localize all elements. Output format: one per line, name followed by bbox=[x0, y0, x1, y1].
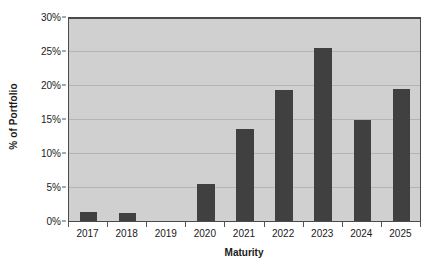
bar-slot bbox=[265, 17, 304, 221]
bar-slot bbox=[382, 17, 421, 221]
y-axis-tick-mark bbox=[62, 51, 66, 52]
bars-layer bbox=[69, 17, 421, 221]
bar-slot bbox=[304, 17, 343, 221]
x-axis-tick-mark bbox=[107, 222, 108, 227]
x-axis-tick-mark bbox=[185, 222, 186, 227]
bar-slot bbox=[186, 17, 225, 221]
bar-chart: % of Portfolio 0%5%10%15%20%25%30% 20172… bbox=[0, 0, 437, 272]
y-axis-title-label: % of Portfolio bbox=[8, 83, 19, 149]
y-axis-tick-mark bbox=[62, 153, 66, 154]
bar-slot bbox=[343, 17, 382, 221]
x-axis-tick-mark bbox=[303, 222, 304, 227]
bar bbox=[197, 184, 215, 221]
x-axis-tick-mark bbox=[381, 222, 382, 227]
bar-slot bbox=[69, 17, 108, 221]
y-axis-title: % of Portfolio bbox=[0, 0, 26, 232]
bar bbox=[314, 48, 332, 221]
x-axis-tick-mark bbox=[342, 222, 343, 227]
bar bbox=[275, 90, 293, 221]
x-axis-tick-label: 2019 bbox=[146, 228, 185, 244]
x-axis-tick-mark bbox=[146, 222, 147, 227]
bar bbox=[80, 212, 98, 221]
y-axis-tick-label: 30% bbox=[41, 12, 61, 23]
y-axis-tick-mark bbox=[62, 119, 66, 120]
x-axis-tick-mark bbox=[420, 222, 421, 227]
x-axis-tick-label: 2024 bbox=[342, 228, 381, 244]
y-axis-tick-labels: 0%5%10%15%20%25%30% bbox=[26, 17, 66, 221]
x-axis-title: Maturity bbox=[68, 247, 420, 258]
x-axis-tick-mark bbox=[264, 222, 265, 227]
x-axis-tick-mark bbox=[224, 222, 225, 227]
x-axis-tick-label: 2025 bbox=[381, 228, 420, 244]
y-axis-tick-mark bbox=[62, 221, 66, 222]
y-axis-tick-label: 0% bbox=[47, 216, 61, 227]
y-axis-tick-label: 20% bbox=[41, 80, 61, 91]
x-axis-tick-label: 2022 bbox=[264, 228, 303, 244]
bar-slot bbox=[147, 17, 186, 221]
y-axis-tick-mark bbox=[62, 85, 66, 86]
bar bbox=[236, 129, 254, 221]
y-axis-tick-label: 25% bbox=[41, 46, 61, 57]
y-axis-tick-mark bbox=[62, 187, 66, 188]
plot-area bbox=[68, 17, 421, 222]
y-axis-tick-label: 5% bbox=[47, 182, 61, 193]
bar bbox=[354, 120, 372, 221]
x-axis-tick-mark bbox=[68, 222, 69, 227]
x-axis-tick-label: 2020 bbox=[185, 228, 224, 244]
x-axis-tick-label: 2017 bbox=[68, 228, 107, 244]
y-axis-tick-label: 15% bbox=[41, 114, 61, 125]
x-axis-tick-label: 2021 bbox=[224, 228, 263, 244]
y-axis-tick-label: 10% bbox=[41, 148, 61, 159]
x-axis-tick-label: 2018 bbox=[107, 228, 146, 244]
bar-slot bbox=[108, 17, 147, 221]
y-axis-tick-mark bbox=[62, 17, 66, 18]
x-axis-tick-label: 2023 bbox=[303, 228, 342, 244]
x-axis-tick-labels: 201720182019202020212022202320242025 bbox=[68, 228, 420, 244]
plot-right-edge bbox=[420, 17, 422, 221]
bar bbox=[119, 213, 137, 221]
bar bbox=[393, 89, 411, 221]
bar-slot bbox=[225, 17, 264, 221]
x-axis-tick-marks bbox=[68, 222, 420, 227]
